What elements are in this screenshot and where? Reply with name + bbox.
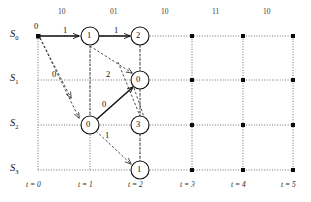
- state-label-s2: S2: [10, 118, 19, 131]
- received-symbol-4: 10: [263, 8, 271, 16]
- time-label-t0: t = 0: [26, 181, 41, 189]
- time-label-t3: t = 3: [180, 181, 195, 189]
- received-symbol-2: 10: [161, 8, 169, 16]
- node-value-t2-s2: 3: [136, 120, 140, 129]
- pruned-path-edges: [40, 38, 144, 164]
- state-label-s3: S3: [10, 163, 19, 176]
- start-node-dot: [36, 34, 41, 39]
- time-label-t5: t = 5: [281, 181, 296, 189]
- time-label-t1: t = 1: [78, 181, 93, 189]
- node-value-t2-s3: 1: [137, 165, 141, 174]
- state-label-s0: S0: [10, 29, 19, 42]
- edge-label-t1-t2-top: 1: [114, 26, 118, 35]
- edge-label-diag-b: 2: [106, 70, 110, 79]
- trellis-diagram-figure: 10 01 10 11 10 S0 S1 S2 S3 t = 0 t = 1 t…: [0, 0, 311, 202]
- edge-label-t0-t1-top: 1: [63, 26, 67, 35]
- node-value-t1-s2: 0: [86, 120, 90, 129]
- state-label-s1: S1: [10, 73, 19, 86]
- received-symbol-3: 11: [212, 8, 219, 16]
- node-value-t2-s0: 2: [136, 31, 140, 40]
- time-label-t2: t = 2: [128, 181, 143, 189]
- time-label-t4: t = 4: [231, 181, 246, 189]
- received-symbol-0: 10: [58, 8, 66, 16]
- trellis-canvas: [0, 0, 311, 202]
- grid-vertical-lines: [38, 36, 293, 170]
- received-symbol-1: 01: [110, 8, 118, 16]
- edge-label-diag-c: 0: [102, 100, 106, 109]
- node-value-t1-s0: 1: [87, 31, 91, 40]
- edge-label-diag-d: 1: [105, 131, 109, 140]
- grid-horizontal-lines: [38, 36, 293, 170]
- node-value-t2-s1: 0: [136, 75, 140, 84]
- edge-label-diag-a: 0: [52, 70, 56, 79]
- start-metric-label: 0: [34, 22, 38, 31]
